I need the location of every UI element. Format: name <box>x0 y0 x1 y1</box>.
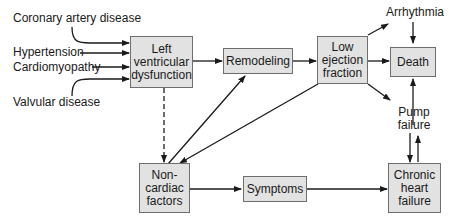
node-non-cardiac-factors: Non- cardiac factors <box>139 163 190 213</box>
node-low-ejection-fraction: Low ejection fraction <box>317 36 368 84</box>
connector-lines <box>0 0 449 220</box>
input-hypertension: Hypertension <box>13 46 84 59</box>
node-remodeling: Remodeling <box>223 48 293 74</box>
node-arrhythmia: Arrhythmia <box>386 6 442 19</box>
node-death: Death <box>390 47 436 77</box>
node-chronic-heart-failure: Chronic heart failure <box>388 163 441 213</box>
node-pump-failure: Pump failure <box>394 106 434 132</box>
input-valvular-disease: Valvular disease <box>13 96 100 109</box>
node-left-ventricular-dysfunction: Left ventricular dysfunction <box>130 36 193 88</box>
node-symptoms: Symptoms <box>243 176 307 202</box>
input-cardiomyopathy: Cardiomyopathy <box>13 61 100 74</box>
input-coronary-artery-disease: Coronary artery disease <box>13 12 141 25</box>
